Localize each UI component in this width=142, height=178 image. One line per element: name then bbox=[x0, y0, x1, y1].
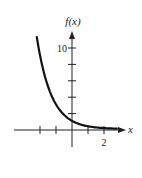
x-tick-label-2: 2 bbox=[102, 137, 107, 148]
y-axis-arrow-icon bbox=[69, 31, 75, 39]
x-axis-label: x bbox=[127, 123, 133, 135]
y-tick-label-10: 10 bbox=[57, 43, 67, 54]
exponential-decay-chart: f(x) x 10 2 bbox=[0, 0, 142, 178]
x-axis-arrow-icon bbox=[118, 127, 126, 133]
y-axis-label: f(x) bbox=[65, 15, 81, 28]
function-curve bbox=[37, 37, 117, 129]
